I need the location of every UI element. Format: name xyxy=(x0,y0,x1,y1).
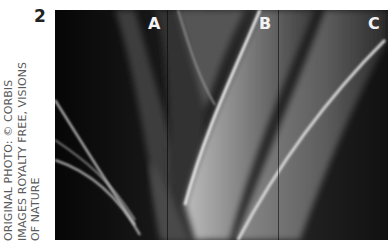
credit-line: IMAGES ROYALTY FREE, VISIONS xyxy=(16,1,30,241)
credit-line: ORIGINAL PHOTO: © CORBIS xyxy=(2,1,16,241)
panel-divider xyxy=(278,10,279,240)
panel-label-c: C xyxy=(368,14,380,33)
panel-divider xyxy=(167,10,168,240)
leaf-photo-image xyxy=(55,10,388,240)
panel-label-b: B xyxy=(259,14,271,33)
panel-label-a: A xyxy=(148,14,160,33)
leaf-photo: A B C xyxy=(55,10,388,240)
credit-line: OF NATURE xyxy=(29,1,43,241)
photo-credit: ORIGINAL PHOTO: © CORBIS IMAGES ROYALTY … xyxy=(2,1,54,241)
